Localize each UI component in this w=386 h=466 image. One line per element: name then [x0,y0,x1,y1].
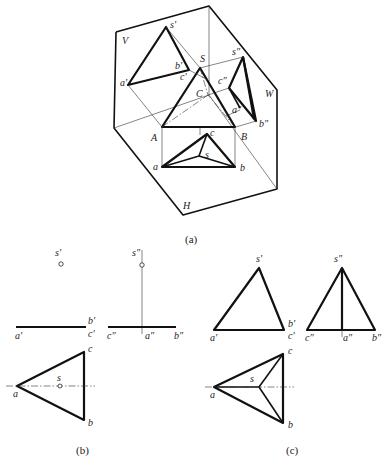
point-s [58,384,62,388]
axis-ox [114,95,209,128]
h-projection-triangle [162,134,235,167]
label-s-double-prime: s″ [232,46,241,57]
label-s-double-prime: s″ [132,247,141,258]
label-a-double-prime: a″ [145,330,155,341]
label-b-prime: b' [175,60,183,71]
projector [236,121,256,127]
label-s: s [250,373,254,384]
label-s: s [57,372,61,383]
label-b-prime: b' [288,318,296,329]
label-S: S [200,53,205,64]
v-triangle [214,268,284,330]
label-c: c [210,127,215,138]
label-b: b [288,419,293,430]
caption-c: (c) [286,444,299,457]
projector [208,88,229,95]
projector [200,57,243,68]
label-s-double-prime: s″ [334,253,343,264]
label-c-prime: c' [88,328,95,339]
label-a: a [13,388,18,399]
label-c-double-prime: c″ [107,330,116,341]
label-s-prime: s' [256,253,263,264]
label-c: c [88,343,93,354]
label-b: b [240,162,245,173]
hidden-edge-ac [162,95,208,127]
label-a-prime: a' [15,330,23,341]
projection-diagram: V W H s' a' b' c' S C A B s″ c″ a″ b″ c … [0,0,386,466]
caption-b: (b) [76,444,89,457]
label-a-double-prime: a″ [232,104,242,115]
label-a-double-prime: a″ [343,332,353,343]
label-s: s [205,149,209,160]
label-A: A [150,132,158,143]
label-a-prime: a' [210,332,218,343]
label-a: a [153,161,158,172]
label-c-double-prime: c″ [218,75,227,86]
caption-a: (a) [185,233,198,246]
label-c: c [288,345,293,356]
h-triangle-abc [214,354,283,423]
label-B: B [241,131,247,142]
axis-oy [209,95,277,189]
figure-b: s' a' b' c' s″ c″ a″ b″ c s a b (b) [6,247,184,457]
label-plane-w: W [265,88,275,99]
label-C: C [196,88,203,99]
projector [166,27,200,68]
label-s-prime: s' [170,19,177,30]
label-c-prime: c' [288,330,295,341]
hidden-edge-bc [208,95,235,127]
label-plane-v: V [122,35,130,46]
label-c-prime: c' [180,71,187,82]
label-a-prime: a' [120,77,128,88]
h-edge-sa [162,156,199,167]
label-b-double-prime: b″ [174,330,184,341]
label-c-double-prime: c″ [305,332,314,343]
label-b-prime: b' [88,315,96,326]
point-s-prime [59,262,63,266]
label-b-double-prime: b″ [372,332,382,343]
label-b-double-prime: b″ [259,118,269,129]
label-a: a [210,389,215,400]
figure-a: V W H s' a' b' c' S C A B s″ c″ a″ b″ c … [114,6,277,246]
label-plane-h: H [182,200,191,211]
point-s-double-prime [140,263,144,267]
w-projection-edge [243,57,254,119]
figure-c: s' a' b' c' s″ c″ a″ b″ c s a b (c) [205,253,382,457]
label-b: b [88,417,93,428]
projector [128,85,162,127]
label-s-prime: s' [55,247,62,258]
